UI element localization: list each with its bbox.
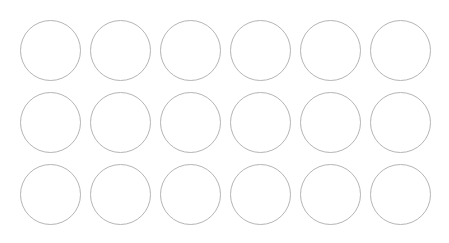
circle-cell bbox=[160, 164, 221, 225]
circle-cell bbox=[370, 164, 431, 225]
canvas-root bbox=[0, 0, 449, 243]
circle-icon[interactable] bbox=[230, 164, 291, 225]
circle-icon[interactable] bbox=[160, 20, 221, 81]
circle-cell bbox=[370, 92, 431, 153]
circle-cell bbox=[230, 92, 291, 153]
circle-icon[interactable] bbox=[300, 164, 361, 225]
circle-cell bbox=[20, 92, 81, 153]
circle-icon[interactable] bbox=[370, 92, 431, 153]
circle-icon[interactable] bbox=[90, 164, 151, 225]
circle-grid bbox=[0, 0, 449, 243]
circle-cell bbox=[20, 164, 81, 225]
circle-icon[interactable] bbox=[300, 20, 361, 81]
circle-cell bbox=[300, 164, 361, 225]
circle-cell bbox=[230, 164, 291, 225]
circle-icon[interactable] bbox=[230, 92, 291, 153]
circle-cell bbox=[90, 92, 151, 153]
circle-icon[interactable] bbox=[160, 92, 221, 153]
circle-icon[interactable] bbox=[90, 92, 151, 153]
circle-icon[interactable] bbox=[20, 20, 81, 81]
circle-cell bbox=[230, 20, 291, 81]
circle-cell bbox=[300, 20, 361, 81]
circle-cell bbox=[160, 20, 221, 81]
circle-cell bbox=[370, 20, 431, 81]
circle-cell bbox=[90, 20, 151, 81]
circle-icon[interactable] bbox=[230, 20, 291, 81]
circle-icon[interactable] bbox=[90, 20, 151, 81]
circle-cell bbox=[90, 164, 151, 225]
circle-icon[interactable] bbox=[370, 20, 431, 81]
circle-icon[interactable] bbox=[20, 92, 81, 153]
circle-cell bbox=[20, 20, 81, 81]
circle-icon[interactable] bbox=[370, 164, 431, 225]
circle-icon[interactable] bbox=[160, 164, 221, 225]
circle-icon[interactable] bbox=[300, 92, 361, 153]
circle-cell bbox=[160, 92, 221, 153]
circle-icon[interactable] bbox=[20, 164, 81, 225]
circle-cell bbox=[300, 92, 361, 153]
